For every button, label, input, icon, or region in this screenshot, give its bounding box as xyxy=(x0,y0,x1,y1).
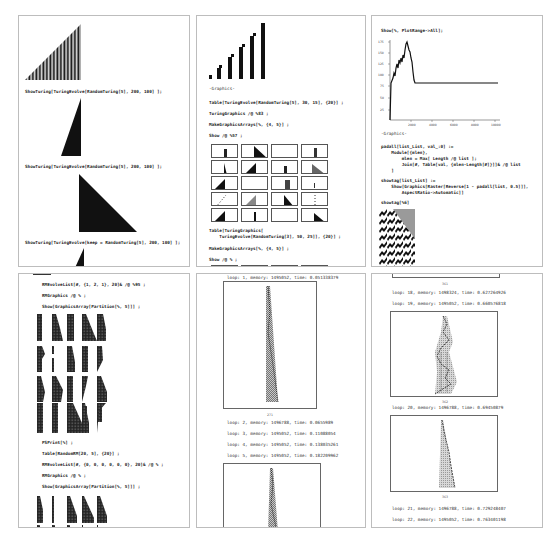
code-line: Table[TuringGraphics[ xyxy=(209,228,263,233)
divider xyxy=(33,274,51,275)
log-line: loop: 4, memory: 1495052, time: 0.138035… xyxy=(227,442,338,447)
output-label: -Graphics- xyxy=(381,131,407,136)
graphics-cell xyxy=(241,208,268,222)
page-top-middle: -Graphics- Table[TuringEvolve[RandomTuri… xyxy=(196,15,366,267)
graphics-cell xyxy=(211,192,238,206)
graphics-frame xyxy=(223,463,321,528)
y-tick-label: 175 xyxy=(378,40,384,44)
code-line: Show[Graphics[Raster[Reverse[1 - padall[… xyxy=(381,184,528,189)
code-line: Join[#, Table[val, {mlen-Length[#]}]]& /… xyxy=(381,162,521,167)
log-line: loop: 22, memory: 1495052, time: 0.76340… xyxy=(392,517,506,522)
y-tick-label: 25 xyxy=(380,108,384,112)
y-tick-label: 150 xyxy=(378,51,384,55)
graphics-frame xyxy=(223,281,317,409)
x-tick-label: 8000 xyxy=(471,123,479,127)
graphics-cell xyxy=(241,176,268,190)
code-line: TuringGraphics /@ %83 ; xyxy=(209,111,269,116)
code-line: MakeGraphicsArrays[%, {4, 5}] ; xyxy=(209,122,289,127)
log-line: loop: 3, memory: 1495052, time: 0.110880… xyxy=(227,431,336,436)
y-tick-label: 75 xyxy=(380,84,384,88)
graphics-cell xyxy=(241,192,268,206)
raster-tag-system-graphic xyxy=(379,209,415,267)
log-line: loop: 1, memory: 1495052, time: 0.051338… xyxy=(227,275,338,280)
graphics-cell xyxy=(241,144,268,158)
turing-evolution-triangle-3 xyxy=(79,174,137,232)
log-line: loop: 5, memory: 1495052, time: 0.182209… xyxy=(227,453,338,458)
graphics-cell xyxy=(211,144,238,158)
y-tick-label: 100 xyxy=(378,73,384,77)
turing-evolution-triangle-4 xyxy=(74,248,84,267)
graphics-cell xyxy=(271,265,298,267)
evolution-wedge-graphic xyxy=(224,282,316,408)
line-plot: 175 150 125 100 75 50 25 2000 4000 6000 … xyxy=(378,38,503,128)
code-line: MakeGraphicsArrays[%, {4, 5}] ; xyxy=(209,246,289,251)
page-bottom-right: 361 loop: 18, memory: 1498324, time: 0.6… xyxy=(371,273,543,528)
page-bottom-middle: loop: 1, memory: 1495052, time: 0.051338… xyxy=(196,273,366,528)
evolution-wedge-graphic xyxy=(224,464,320,528)
code-line: RMGraphics /@ % ; xyxy=(42,293,86,298)
code-line: RMGraphics /@ % ; xyxy=(42,473,86,478)
code-line: PSPrint[%] ; xyxy=(42,440,73,445)
code-line: padall[list_List, val_:0] := xyxy=(381,144,453,149)
code-line: Table[RandomRM[20, 5], {20}] ; xyxy=(42,451,120,456)
graphics-cell xyxy=(211,160,238,174)
code-line: Show[GraphicsArray[Partition[%, 5]]] ; xyxy=(42,304,140,309)
graphics-cell xyxy=(301,208,328,222)
code-line: ShowTuring[TuringEvolve[keep = RandomTur… xyxy=(25,240,180,245)
y-tick-label: 125 xyxy=(378,62,384,66)
graphics-cell xyxy=(241,160,268,174)
graphics-cell xyxy=(301,160,328,174)
code-line: mlen = Max[ Length /@ list ]; xyxy=(381,156,477,161)
graphics-cell xyxy=(211,265,238,267)
x-tick-label: 4000 xyxy=(429,123,437,127)
register-machine-graphics-array-1-continued xyxy=(37,403,132,436)
register-machine-graphics-array-2 xyxy=(37,496,132,528)
log-line: loop: 21, memory: 1496788, time: 0.72924… xyxy=(392,506,506,511)
graphics-cell xyxy=(301,144,328,158)
graphics-cell xyxy=(271,192,298,206)
page-number: 362 xyxy=(442,400,448,404)
log-line: loop: 19, memory: 1495052, time: 0.66057… xyxy=(392,301,506,306)
graphics-cell xyxy=(211,176,238,190)
page-number: 361 xyxy=(442,282,448,286)
graphics-cell xyxy=(301,192,328,206)
page-bottom-left: RMEvolveList[#, {1, 2, 1}, 20]& /@ %95 ;… xyxy=(18,273,190,528)
code-line: Show /@ %57 ; xyxy=(209,133,243,138)
code-line: Show[GraphicsArray[Partition[%, 5]]] ; xyxy=(42,484,140,489)
code-line: RMEvolveList[#, {1, 2, 1}, 20]& /@ %95 ; xyxy=(42,282,145,287)
graphics-cell xyxy=(211,208,238,222)
graphics-frame xyxy=(390,311,498,397)
log-line: loop: 18, memory: 1498324, time: 0.62726… xyxy=(392,290,506,295)
code-line: ShowTuring[TuringEvolve[RandomTuring[5],… xyxy=(25,89,162,94)
graphics-cell xyxy=(271,208,298,222)
code-line: Module[{mlen}, xyxy=(381,150,428,155)
code-line: showtag[%6] xyxy=(381,200,409,205)
page-top-right: Show[%, PlotRange->All]; 175 150 125 100… xyxy=(371,15,543,267)
x-tick-label: 6000 xyxy=(450,123,458,127)
code-line: Show[%, PlotRange->All]; xyxy=(381,28,443,33)
turing-evolution-triangle-1 xyxy=(25,24,83,80)
graphics-cell xyxy=(301,265,328,267)
page-number: 271 xyxy=(267,413,273,417)
graphics-cell xyxy=(271,160,298,174)
evolution-branch-graphic xyxy=(391,312,497,396)
evolution-wedge-graphic xyxy=(391,416,497,491)
graphics-cell xyxy=(301,176,328,190)
bar-staircase-graphic xyxy=(209,23,279,83)
log-line: loop: 2, memory: 1496788, time: 0.065598… xyxy=(227,420,333,425)
code-line: Table[TuringEvolve[RandomTuring[5], 30, … xyxy=(209,100,344,105)
graphics-cell xyxy=(271,176,298,190)
code-line: TuringEvolve[RandomTuring[3], 50, 25]], … xyxy=(209,234,341,239)
code-line: ShowTuring[TuringEvolve[RandomTuring[5],… xyxy=(25,164,162,169)
code-line: AspectRatio->Automatic]] xyxy=(381,190,464,195)
page-top-left: ShowTuring[TuringEvolve[RandomTuring[5],… xyxy=(18,15,190,267)
code-line: showtag[list_List] := xyxy=(381,178,435,183)
graphics-array xyxy=(211,144,329,222)
page-number: 363 xyxy=(442,495,448,499)
output-label: -Graphics- xyxy=(209,86,235,91)
y-tick-label: 50 xyxy=(380,96,384,100)
plot-canvas xyxy=(378,38,503,128)
code-line: Show /@ % ; xyxy=(209,257,237,262)
graphics-cell xyxy=(241,265,268,267)
graphics-cell xyxy=(271,144,298,158)
